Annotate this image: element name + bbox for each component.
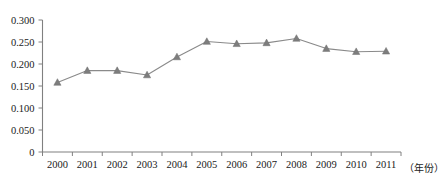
chart-canvas: 0.3000.2500.2000.1500.1000.0500 20002001… xyxy=(0,0,443,181)
y-axis-tick-label: 0.300 xyxy=(11,15,35,26)
x-axis-tick-label: 2011 xyxy=(376,159,397,170)
x-axis-tick-label: 2004 xyxy=(166,159,188,170)
x-axis-tick-label: 2002 xyxy=(107,159,128,170)
x-axis-tick-label: 2001 xyxy=(77,159,98,170)
x-axis-tick-label: 2007 xyxy=(256,159,277,170)
x-axis-tick-label: 2005 xyxy=(196,159,217,170)
x-axis-tick-label: 2006 xyxy=(226,159,247,170)
x-axis-caption: （年份） xyxy=(404,162,443,174)
y-axis-tick-label: 0 xyxy=(29,147,34,158)
x-axis-tick-label: 2003 xyxy=(137,159,158,170)
x-axis-tick-label: 2000 xyxy=(47,159,68,170)
line-chart: 0.3000.2500.2000.1500.1000.0500 20002001… xyxy=(0,0,443,181)
y-axis-tick-label: 0.200 xyxy=(11,59,35,70)
y-axis-tick-label: 0.100 xyxy=(11,103,35,114)
x-axis-tick-label: 2010 xyxy=(346,159,367,170)
y-axis-tick-label: 0.250 xyxy=(11,37,35,48)
x-axis-tick-label: 2009 xyxy=(316,159,337,170)
y-axis-tick-label: 0.150 xyxy=(11,81,35,92)
x-axis-tick-label: 2008 xyxy=(286,159,307,170)
y-axis-tick-label: 0.050 xyxy=(11,125,35,136)
